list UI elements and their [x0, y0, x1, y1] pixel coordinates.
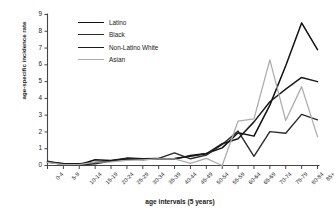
series-line-latino	[48, 23, 318, 165]
series-line-asian	[48, 60, 318, 166]
series-line-non-latino-white	[48, 77, 318, 163]
